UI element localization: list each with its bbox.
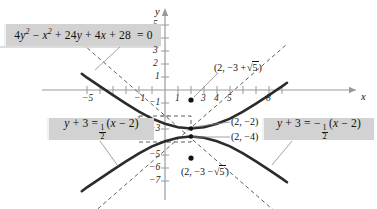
- vertex-upper-point: [189, 126, 193, 130]
- focus-lower-point: [188, 156, 193, 161]
- vertex-lower-point: [189, 134, 193, 138]
- equation-expression: 4y2 − x2 + 24y + 4x + 28 = 0: [8, 29, 158, 41]
- asym-left-denominator: 2: [99, 132, 105, 141]
- y-tick-3: 3: [153, 45, 158, 55]
- asymptote-right-expression: y + 3 = −12(x − 2): [271, 117, 367, 142]
- equation-callout: 4y2 − x2 + 24y + 4x + 28 = 0: [4, 24, 161, 46]
- asym-left-plus: +: [73, 117, 80, 129]
- plotted-points: [188, 97, 193, 160]
- asymptote-left-callout: y + 3 =12(x − 2): [47, 118, 154, 140]
- lower-branch: [82, 137, 287, 192]
- hyperbola-figure: y x −5 −1 1 3 4 5 8 5 4 3 2 1 −1 −3 −5 −…: [0, 0, 377, 209]
- equation-plus-2: +: [85, 29, 92, 41]
- asym-right-fraction: 12: [322, 124, 328, 142]
- y-axis: [161, 8, 169, 200]
- focus-lower-suffix: ): [226, 166, 229, 177]
- x-tick-4: 4: [214, 93, 219, 103]
- asym-right-numerator: 1: [322, 124, 328, 132]
- asym-left-paren-close: ): [135, 117, 139, 129]
- y-tick--6: −6: [149, 162, 160, 172]
- focus-lower-radical: √5: [213, 166, 226, 177]
- asym-left-const: 3: [82, 117, 88, 129]
- focus-lower-label: (2, −3 −√5): [181, 166, 229, 177]
- asym-right-inner-minus: −: [341, 117, 348, 129]
- x-tick--5: −5: [82, 93, 93, 103]
- asymptote-left-expression: y + 3 =12(x − 2): [58, 117, 144, 142]
- equation-exponent-x: 2: [48, 27, 52, 36]
- x-axis-label: x: [361, 91, 366, 102]
- equation-rhs: 0: [147, 29, 153, 41]
- y-tick--7: −7: [149, 175, 160, 185]
- equation-var-x-2: x: [101, 29, 106, 41]
- y-tick--1: −1: [149, 97, 160, 107]
- asym-left-var-y: y: [64, 117, 69, 129]
- x-tick--1: −1: [134, 93, 145, 103]
- asym-left-inner-minus: −: [119, 117, 126, 129]
- y-tick--5: −5: [149, 149, 160, 159]
- asym-right-plus: +: [285, 117, 292, 129]
- focus-lower-prefix: (2, −3 −: [181, 166, 213, 177]
- focus-upper-radical: √5: [246, 62, 259, 73]
- equation-coef-24: 24: [65, 29, 77, 41]
- equation-plus-1: +: [55, 29, 62, 41]
- x-tick-8: 8: [266, 93, 271, 103]
- focus-upper-radicand: 5: [252, 61, 259, 73]
- equation-constant: 28: [119, 29, 131, 41]
- leader-lines: [95, 47, 292, 166]
- leader-asym-left: [100, 141, 118, 166]
- x-tick-3: 3: [201, 93, 206, 103]
- equation-exponent-y: 2: [26, 27, 30, 36]
- equation-equals: =: [137, 29, 144, 41]
- x-tick-5: 5: [227, 93, 232, 103]
- asym-right-sign: −: [314, 117, 321, 129]
- vertex-upper-label: (2, −2): [231, 116, 258, 127]
- y-axis-label: y: [155, 6, 160, 17]
- asym-left-equals: =: [91, 117, 98, 129]
- focus-upper-point: [188, 97, 193, 102]
- asym-left-inner-var: x: [111, 117, 116, 129]
- equation-var-y-2: y: [77, 29, 82, 41]
- asym-left-numerator: 1: [99, 124, 105, 132]
- focus-lower-radicand: 5: [219, 165, 226, 177]
- y-tick-1: 1: [155, 71, 160, 81]
- asym-right-denominator: 2: [322, 132, 328, 141]
- focus-upper-prefix: (2, −3 +: [214, 62, 246, 73]
- asym-right-paren-close: ): [357, 117, 361, 129]
- asym-right-var-y: y: [277, 117, 282, 129]
- leader-asym-right: [272, 141, 292, 165]
- focus-upper-suffix: ): [259, 62, 262, 73]
- equation-plus-3: +: [109, 29, 116, 41]
- asym-right-equals: =: [304, 117, 311, 129]
- x-tick-1: 1: [175, 93, 180, 103]
- asymptote-right-callout: y + 3 = −12(x − 2): [262, 118, 374, 140]
- asym-right-inner-var: x: [333, 117, 338, 129]
- asym-left-fraction: 12: [99, 124, 105, 142]
- vertex-lower-label: (2, −4): [231, 131, 258, 142]
- y-tick-2: 2: [153, 58, 158, 68]
- equation-minus-1: −: [33, 29, 40, 41]
- focus-upper-label: (2, −3 +√5): [214, 62, 262, 73]
- asym-right-const: 3: [295, 117, 301, 129]
